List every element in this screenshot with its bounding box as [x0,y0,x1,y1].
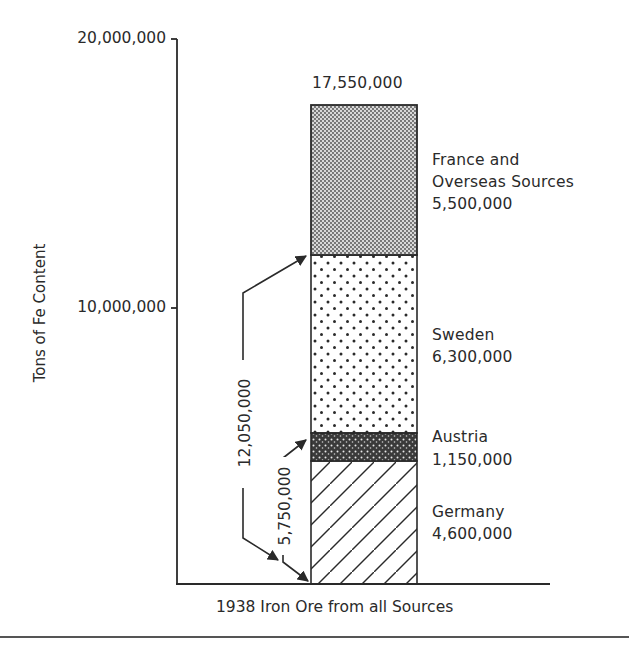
ytick-label-20m: 20,000,000 [52,29,166,47]
sweden-value: 6,300,000 [432,347,513,368]
segment-france [311,105,417,255]
y-axis [171,39,177,584]
france-label-line1: France and [432,150,520,171]
segment-austria [311,433,417,461]
ytick-label-10m: 10,000,000 [52,298,166,316]
france-label-line2: Overseas Sources [432,172,574,193]
segment-germany [311,461,417,584]
sweden-label: Sweden [432,325,494,346]
stacked-bar-chart [0,0,629,651]
stacked-bar [311,105,417,584]
germany-label: Germany [432,502,505,523]
austria-value: 1,150,000 [432,450,513,471]
segment-sweden [311,255,417,433]
bracket-label-12050000: 12,050,000 [236,374,254,472]
bottom-rule [0,636,629,638]
austria-label: Austria [432,427,488,448]
y-axis-title: Tons of Fe Content [31,221,49,405]
total-label: 17,550,000 [312,73,403,94]
x-axis-title: 1938 Iron Ore from all Sources [216,598,453,616]
germany-value: 4,600,000 [432,524,513,545]
bracket-label-5750000: 5,750,000 [276,457,294,555]
france-value: 5,500,000 [432,194,513,215]
